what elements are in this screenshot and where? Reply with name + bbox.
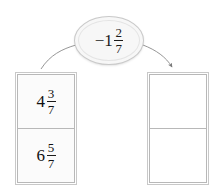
fraction-part: 3 7 (47, 87, 56, 116)
output-cell-row-2[interactable] (150, 128, 206, 182)
denominator: 7 (115, 41, 124, 55)
input-cell-row-1: 4 3 7 (18, 75, 74, 128)
numerator: 5 (47, 141, 56, 155)
input-table-inner: 4 3 7 6 5 7 (17, 74, 75, 183)
input-cell-row-2: 6 5 7 (18, 128, 74, 182)
operation-oval: − 1 2 7 (74, 16, 144, 65)
fraction-part: 5 7 (47, 141, 56, 170)
mixed-number-input-1: 4 3 7 (37, 87, 56, 116)
operation-value: − 1 2 7 (74, 16, 144, 65)
right-connector-arrow (143, 45, 172, 67)
worksheet-canvas: − 1 2 7 4 3 7 (0, 0, 216, 195)
numerator: 2 (115, 26, 124, 40)
fraction-part: 2 7 (114, 26, 123, 55)
whole-part: 6 (37, 147, 46, 164)
output-cell-row-1[interactable] (150, 75, 206, 128)
left-connector-line (41, 45, 76, 69)
mixed-number-input-2: 6 5 7 (37, 141, 56, 170)
numerator: 3 (47, 87, 56, 101)
mixed-number-operation: − 1 2 7 (95, 26, 124, 55)
output-table-inner (149, 74, 207, 183)
input-table: 4 3 7 6 5 7 (15, 72, 77, 185)
denominator: 7 (47, 102, 56, 116)
minus-sign: − (95, 32, 105, 49)
denominator: 7 (47, 156, 56, 170)
whole-part: 4 (37, 93, 46, 110)
output-table[interactable] (147, 72, 209, 185)
whole-part: 1 (104, 32, 113, 49)
